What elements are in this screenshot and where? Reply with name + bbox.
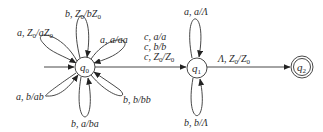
label-q1-loop-top: a, a/Λ [184, 6, 208, 17]
pda-diagram: q0 q1 q2 b, Z0/bZ0 a, Z0/aZ0 a, a/aa a, … [0, 0, 323, 132]
label-q0-loop-bottom: b, a/ba [71, 118, 99, 129]
q0-loop-lower-right [91, 72, 123, 96]
label-q0-loop-upper-right: a, a/aa [100, 34, 128, 45]
state-q0: q0 [75, 57, 95, 77]
label-q0-loop-lower-right: b, b/bb [123, 94, 151, 105]
state-q2-accepting: q2 [291, 56, 313, 78]
q0-loop-top [76, 16, 89, 58]
q0-loop-bottom [79, 77, 90, 117]
label-q0-q1-line3: c, Z0/Z0 [144, 51, 175, 64]
label-q0-loop-lower-left: a, b/ab [16, 91, 44, 102]
label-q0-loop-upper-left: a, Z0/aZ0 [17, 27, 53, 40]
label-q1-loop-bottom: b, b/Λ [184, 117, 208, 128]
q1-loop-bottom [191, 78, 202, 116]
q0-loop-lower-left [46, 73, 78, 96]
label-q0-loop-top: b, Z0/bZ0 [65, 8, 101, 21]
label-q1-q2: Λ, Z0/Z0 [217, 53, 250, 66]
q1-loop-top [190, 19, 201, 58]
state-q1: q1 [187, 58, 207, 78]
q0-loop-upper-left [40, 35, 77, 63]
